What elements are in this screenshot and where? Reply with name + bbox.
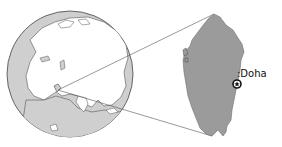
globe — [7, 11, 133, 140]
doha-label: :Doha — [237, 69, 267, 79]
qatar-inset-landmass — [183, 14, 244, 136]
doha-marker-icon — [233, 80, 241, 88]
eurasia-landmass — [26, 17, 128, 107]
